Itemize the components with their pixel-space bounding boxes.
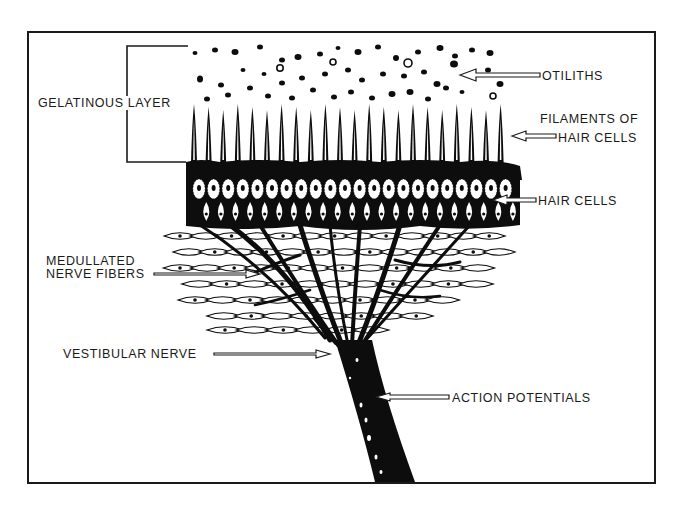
otoliths-granules (193, 45, 504, 102)
label-medullated-line2: NERVE FIBERS (46, 267, 145, 281)
label-hair-cells: HAIR CELLS (538, 194, 617, 208)
action-potentials-arrow (376, 393, 449, 401)
label-filaments-line1: FILAMENTS OF (540, 112, 638, 126)
label-vestibular-nerve: VESTIBULAR NERVE (63, 347, 197, 361)
label-medullated-line1: MEDULLATED (46, 254, 135, 268)
label-gelatinous-layer: GELATINOUS LAYER (36, 96, 173, 110)
vestibular-nerve-arrow (214, 350, 330, 358)
label-action-potentials: ACTION POTENTIALS (452, 391, 591, 405)
filaments-arrow (512, 131, 556, 141)
hair-cells-row (186, 175, 520, 230)
vestibular-diagram: GELATINOUS LAYER OTILITHS FILAMENTS OF H… (0, 0, 679, 515)
label-filaments-line2: HAIR CELLS (558, 131, 637, 145)
otiliths-arrow (460, 69, 540, 81)
supporting-cells (163, 233, 515, 334)
label-otiliths: OTILITHS (542, 69, 603, 83)
hair-cell-filaments (191, 104, 504, 163)
